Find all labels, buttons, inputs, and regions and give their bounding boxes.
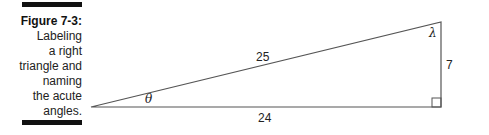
adjacent-side-label: 24 (258, 111, 271, 125)
hypotenuse-label: 25 (256, 50, 269, 64)
right-angle-marker-icon (432, 98, 441, 107)
triangle-outline (91, 22, 441, 107)
right-triangle-diagram (0, 0, 489, 135)
opposite-side-label: 7 (446, 58, 453, 72)
lambda-angle-label: λ (429, 26, 437, 40)
theta-angle-label: θ (145, 92, 152, 106)
